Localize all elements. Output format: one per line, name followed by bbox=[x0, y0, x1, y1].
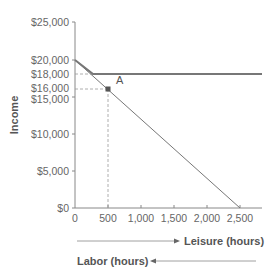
y-tick-0: $0 bbox=[57, 202, 69, 214]
right-arrow-icon bbox=[174, 239, 180, 244]
income-leisure-chart: $25,000 $20,000 $18,000 $16,000 $15,000 … bbox=[0, 0, 275, 276]
x-tick-2500: 2,500 bbox=[227, 212, 253, 224]
y-tick-18000: $18,000 bbox=[31, 68, 69, 80]
left-arrow-icon bbox=[150, 259, 156, 264]
x-tick-0: 0 bbox=[72, 212, 78, 224]
point-a-label: A bbox=[116, 74, 124, 86]
y-tick-20000: $20,000 bbox=[31, 54, 69, 66]
guaranteed-income-line bbox=[75, 60, 262, 74]
y-axis-label: Income bbox=[8, 96, 20, 135]
x-tick-500: 500 bbox=[99, 212, 117, 224]
y-tick-10000: $10,000 bbox=[31, 128, 69, 140]
x-axis-label: Leisure (hours) bbox=[184, 235, 264, 247]
y-tick-5000: $5,000 bbox=[37, 165, 69, 177]
x-tick-2000: 2,000 bbox=[194, 212, 220, 224]
x-tick-1000: 1,000 bbox=[128, 212, 154, 224]
point-a-marker bbox=[106, 87, 111, 92]
y-tick-15000: $15,000 bbox=[31, 93, 69, 105]
budget-line bbox=[75, 60, 240, 208]
x-tick-1500: 1,500 bbox=[161, 212, 187, 224]
y-tick-25000: $25,000 bbox=[31, 16, 69, 28]
x2-axis-label: Labor (hours) bbox=[77, 255, 149, 267]
